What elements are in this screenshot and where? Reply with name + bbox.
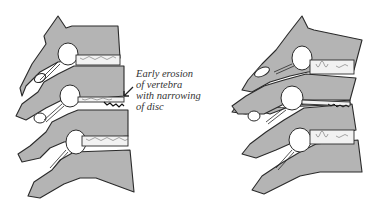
figure-panel-b [190, 0, 377, 214]
annotation-arrow [122, 86, 134, 98]
disc-3 [82, 136, 128, 146]
foramen-2 [60, 85, 80, 107]
erosion-mark [104, 102, 124, 107]
disc-2-narrowed [78, 97, 124, 102]
foramen-1 [58, 43, 78, 65]
foramen-1 [292, 46, 312, 70]
spine-illustration-b [190, 0, 377, 214]
foramen-3 [289, 128, 311, 152]
foramen-2 [281, 86, 303, 110]
foramen-5 [34, 113, 46, 123]
vertebra-base [28, 150, 134, 198]
disc-3 [310, 130, 354, 144]
disc-1 [310, 60, 354, 74]
foramen-5 [248, 111, 260, 121]
